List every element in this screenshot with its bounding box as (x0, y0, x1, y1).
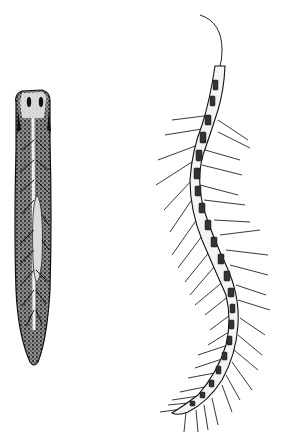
bristle-worm-illustration (156, 15, 270, 432)
flatworm-pharynx (33, 195, 43, 282)
flatworm-eyespot-left (27, 97, 31, 107)
illustration-canvas (0, 0, 285, 437)
antenna (200, 15, 222, 66)
flatworm-illustration (15, 90, 51, 365)
flatworm-eyespot-right (39, 97, 43, 107)
